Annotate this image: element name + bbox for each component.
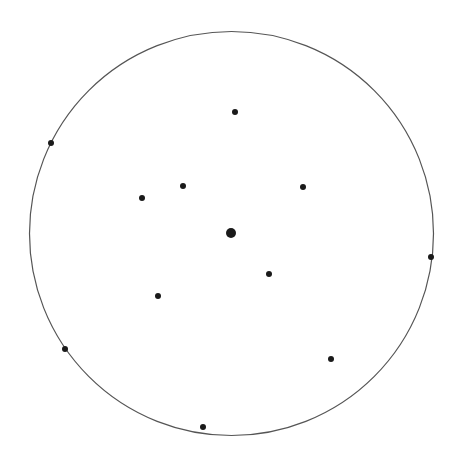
points-group: [48, 109, 434, 430]
point-6: [266, 271, 272, 277]
point-5: [428, 254, 434, 260]
point-7: [155, 293, 161, 299]
center-point: [226, 228, 236, 238]
point-10: [200, 424, 206, 430]
point-4: [300, 184, 306, 190]
point-0: [232, 109, 238, 115]
point-9: [328, 356, 334, 362]
point-8: [62, 346, 68, 352]
circle-point-diagram: [0, 0, 457, 463]
point-3: [139, 195, 145, 201]
point-2: [180, 183, 186, 189]
point-1: [48, 140, 54, 146]
